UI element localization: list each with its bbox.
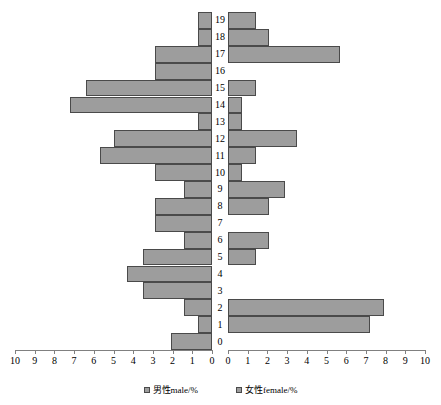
male-bar-row <box>15 29 212 46</box>
axis-tick-label: 5 <box>317 355 337 367</box>
male-bar-row <box>15 147 212 164</box>
male-bar <box>143 282 212 299</box>
category-label: 18 <box>212 32 228 42</box>
axis-tick <box>74 350 75 354</box>
axis-tick-label: 6 <box>336 355 356 367</box>
male-bar <box>198 29 212 46</box>
legend-item-female: 女性female/% <box>236 383 297 396</box>
axis-tick-label: 9 <box>25 355 45 367</box>
male-bars-group <box>15 12 212 350</box>
male-bar-row <box>15 130 212 147</box>
axis-tick <box>287 350 288 354</box>
category-label: 16 <box>212 66 228 76</box>
male-bar-row <box>15 164 212 181</box>
female-bar-row <box>228 316 425 333</box>
male-bar-row <box>15 333 212 350</box>
male-bar <box>155 198 212 215</box>
axis-tick <box>425 350 426 354</box>
male-bar <box>155 215 212 232</box>
female-bar-row <box>228 147 425 164</box>
category-label: 7 <box>212 218 228 228</box>
axis-tick-label: 4 <box>123 355 143 367</box>
category-label: 0 <box>212 337 228 347</box>
category-axis-labels: 012345678910111213141516171819 <box>212 12 228 350</box>
axis-tick-label: 3 <box>143 355 163 367</box>
female-bar <box>228 29 269 46</box>
category-label: 4 <box>212 269 228 279</box>
male-bar-row <box>15 113 212 130</box>
axis-tick-label: 7 <box>356 355 376 367</box>
axis-tick <box>212 350 213 354</box>
axis-tick-label: 6 <box>84 355 104 367</box>
category-label: 12 <box>212 134 228 144</box>
female-bar-row <box>228 333 425 350</box>
axis-tick <box>114 350 115 354</box>
female-bar-row <box>228 80 425 97</box>
axis-tick <box>346 350 347 354</box>
male-bar <box>114 130 213 147</box>
female-bar-row <box>228 97 425 114</box>
axis-tick <box>228 350 229 354</box>
axis-tick-label: 0 <box>218 355 238 367</box>
female-bar <box>228 97 242 114</box>
axis-tick <box>153 350 154 354</box>
female-bar-row <box>228 164 425 181</box>
female-bar-row <box>228 215 425 232</box>
female-bar-row <box>228 266 425 283</box>
male-bar-row <box>15 46 212 63</box>
category-label: 2 <box>212 303 228 313</box>
female-bar-row <box>228 249 425 266</box>
female-bar <box>228 249 256 266</box>
male-bar <box>70 97 212 114</box>
axis-tick-label: 1 <box>182 355 202 367</box>
legend-item-male: 男性male/% <box>144 383 199 396</box>
axis-tick-label: 1 <box>238 355 258 367</box>
female-bar-row <box>228 232 425 249</box>
axis-tick <box>94 350 95 354</box>
male-bar-row <box>15 97 212 114</box>
male-bar-row <box>15 181 212 198</box>
male-bar-row <box>15 215 212 232</box>
female-bar-row <box>228 181 425 198</box>
male-bar-row <box>15 249 212 266</box>
female-bar <box>228 181 285 198</box>
category-label: 9 <box>212 184 228 194</box>
female-bar-row <box>228 198 425 215</box>
female-bar-row <box>228 113 425 130</box>
male-bar <box>198 316 212 333</box>
female-bar <box>228 147 256 164</box>
female-bar <box>228 164 242 181</box>
male-bar <box>171 333 212 350</box>
axis-tick <box>173 350 174 354</box>
legend-swatch-female-icon <box>236 387 242 393</box>
axis-tick-label: 8 <box>44 355 64 367</box>
category-label: 1 <box>212 320 228 330</box>
female-bar-row <box>228 63 425 80</box>
category-label: 5 <box>212 252 228 262</box>
female-bar <box>228 46 340 63</box>
axis-tick <box>35 350 36 354</box>
female-bars-group <box>228 12 425 350</box>
male-bar <box>127 266 212 283</box>
plot-area: 012345678910111213141516171819 <box>15 12 425 350</box>
legend-label-male: 男性male/% <box>153 383 199 396</box>
axis-tick <box>133 350 134 354</box>
female-bar-row <box>228 29 425 46</box>
axis-tick-label: 2 <box>257 355 277 367</box>
axis-tick <box>54 350 55 354</box>
axis-tick <box>327 350 328 354</box>
category-label: 19 <box>212 15 228 25</box>
male-bar-row <box>15 232 212 249</box>
male-bar-row <box>15 63 212 80</box>
axis-tick <box>386 350 387 354</box>
female-bar <box>228 232 269 249</box>
male-bar-row <box>15 198 212 215</box>
population-pyramid-chart: 012345678910111213141516171819 109876543… <box>0 0 441 405</box>
category-label: 10 <box>212 168 228 178</box>
category-label: 14 <box>212 100 228 110</box>
axis-tick-label: 8 <box>376 355 396 367</box>
category-label: 15 <box>212 83 228 93</box>
female-bar-row <box>228 12 425 29</box>
male-bar <box>198 113 212 130</box>
category-label: 3 <box>212 286 228 296</box>
